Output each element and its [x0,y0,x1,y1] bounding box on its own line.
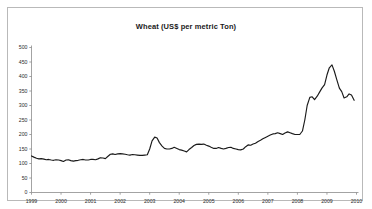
data-series-group [32,65,355,162]
x-tick-label: 2009 [321,198,333,204]
y-tick-label: 150 [19,146,28,152]
x-tick-label: 2008 [292,198,304,204]
x-axis: 1999200020012002200320042005200620072008… [26,193,363,205]
y-tick-label: 450 [19,59,28,65]
y-tick-label: 500 [19,44,28,50]
x-tick-label: 1999 [26,198,38,204]
y-tick-label: 200 [19,131,28,137]
wheat-price-chart-figure: Wheat (US$ per metric Ton) 0501001502002… [0,0,372,209]
x-tick-label: 2006 [233,198,245,204]
series-line [32,65,355,162]
x-tick-label: 2001 [85,198,97,204]
y-tick-label: 300 [19,102,28,108]
y-tick-label: 350 [19,88,28,94]
x-tick-label: 2010 [351,198,363,204]
x-tick-label: 2004 [173,198,185,204]
y-axis: 050100150200250300350400450500 [19,44,32,195]
x-tick-label: 2007 [262,198,274,204]
x-tick-label: 2002 [114,198,126,204]
y-tick-label: 400 [19,73,28,79]
x-tick-label: 2005 [203,198,215,204]
y-tick-label: 50 [22,175,28,181]
y-tick-label: 100 [19,160,28,166]
y-tick-label: 250 [19,117,28,123]
chart-plot-area: 050100150200250300350400450500 199920002… [0,0,372,209]
y-tick-label: 0 [25,189,28,195]
x-tick-label: 2003 [144,198,156,204]
x-tick-label: 2000 [55,198,67,204]
